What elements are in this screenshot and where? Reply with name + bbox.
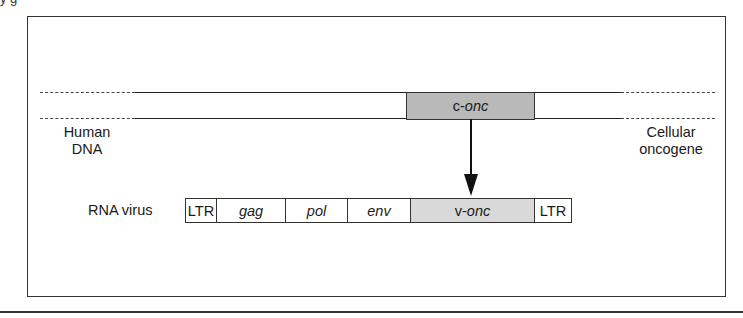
segment-v-onc: v-onc xyxy=(410,198,534,223)
segment-gag: gag xyxy=(216,198,285,223)
rna-virus-label: RNA virus xyxy=(88,202,152,219)
figure-frame xyxy=(27,16,726,297)
segment-pol: pol xyxy=(285,198,347,223)
dna-top-dashed-left xyxy=(40,92,135,93)
bottom-rule xyxy=(0,311,743,313)
dna-top-dashed-right xyxy=(621,92,715,93)
dna-bottom-dashed-right xyxy=(621,118,715,119)
dna-top-solid xyxy=(135,92,621,93)
dna-bottom-solid xyxy=(135,118,621,119)
caption-fragment: y g xyxy=(0,0,17,6)
c-onc-prefix: c- xyxy=(453,98,465,114)
v-onc-name: onc xyxy=(467,203,490,219)
c-onc-gene-box: c-onc xyxy=(406,92,535,120)
segment-ltr-left: LTR xyxy=(185,198,216,223)
rna-virus-genome: LTR gag pol env v-onc LTR xyxy=(185,198,572,223)
segment-ltr-right: LTR xyxy=(534,198,572,223)
c-onc-name: onc xyxy=(465,98,488,114)
v-onc-prefix: v- xyxy=(455,203,467,219)
cellular-oncogene-label: Cellular oncogene xyxy=(626,124,716,158)
arrow-shaft xyxy=(470,119,472,175)
dna-bottom-dashed-left xyxy=(40,118,135,119)
human-dna-label: Human DNA xyxy=(52,124,122,158)
segment-env: env xyxy=(347,198,410,223)
arrow-head xyxy=(464,174,478,196)
